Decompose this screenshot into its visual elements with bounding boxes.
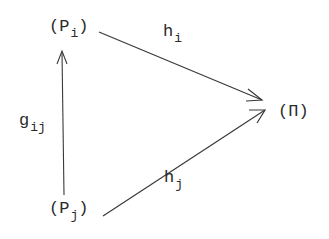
label-h-i-base: h bbox=[163, 22, 173, 41]
paren-close: ) bbox=[78, 199, 88, 218]
node-pi-target: (Π) bbox=[278, 103, 309, 120]
node-p-i: (Pi) bbox=[49, 18, 88, 40]
node-p-j-base: P bbox=[59, 199, 69, 218]
arrow-g-ij bbox=[57, 51, 67, 195]
node-p-j: (Pj) bbox=[49, 200, 88, 222]
arrow-h-j bbox=[103, 110, 265, 216]
label-g-subscript: ij bbox=[30, 120, 46, 135]
label-g-ij: gij bbox=[19, 112, 46, 134]
label-h-i: hi bbox=[163, 23, 182, 45]
label-h-i-subscript: i bbox=[174, 31, 182, 46]
label-h-j-base: h bbox=[164, 168, 174, 187]
label-h-j-subscript: j bbox=[175, 177, 183, 192]
label-h-j: hj bbox=[164, 169, 183, 191]
label-g-base: g bbox=[19, 111, 29, 130]
paren-close: ) bbox=[78, 17, 88, 36]
paren-open: ( bbox=[49, 17, 59, 36]
paren-open: ( bbox=[49, 199, 59, 218]
node-p-i-base: P bbox=[59, 17, 69, 36]
